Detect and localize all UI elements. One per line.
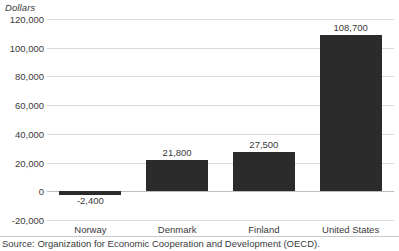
bar (320, 35, 382, 191)
y-axis-tick-label: 80,000 (15, 71, 44, 82)
bar (59, 191, 121, 194)
bar (146, 160, 208, 191)
x-axis-category-label: Finland (248, 224, 279, 235)
y-axis-tick-label: 120,000 (10, 14, 44, 25)
plot-area: -2,40021,80027,500108,700 (47, 19, 394, 220)
gridline (47, 220, 394, 221)
y-axis-title: Dollars (5, 2, 35, 13)
y-axis-tick-label: 100,000 (10, 42, 44, 53)
source-note: Source: Organization for Economic Cooper… (2, 238, 320, 249)
x-axis-category-label: Norway (74, 224, 106, 235)
bar-value-label: 21,800 (163, 147, 192, 158)
y-axis-tick-label: 0 (39, 186, 44, 197)
x-axis-category-label: United States (322, 224, 379, 235)
y-axis-tick-label: -20,000 (12, 215, 44, 226)
y-axis-tick-label: 20,000 (15, 157, 44, 168)
bar (233, 152, 295, 191)
bar-chart: Dollars 120,000100,00080,00060,00040,000… (0, 0, 399, 251)
footer-divider (0, 236, 399, 237)
bar-value-label: 27,500 (249, 139, 278, 150)
x-axis-category-label: Denmark (158, 224, 197, 235)
y-axis-tick-label: 60,000 (15, 100, 44, 111)
y-axis-tick-labels: 120,000100,00080,00060,00040,00020,0000-… (0, 19, 44, 220)
gridline (47, 19, 394, 20)
y-axis-tick-label: 40,000 (15, 128, 44, 139)
bar-value-label: -2,400 (77, 195, 104, 206)
bar-value-label: 108,700 (333, 22, 367, 33)
